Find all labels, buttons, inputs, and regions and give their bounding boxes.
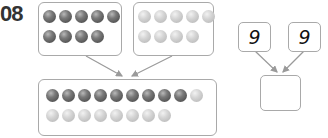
dark-ball bbox=[126, 89, 139, 102]
light-ball bbox=[170, 30, 183, 43]
light-ball bbox=[190, 89, 203, 102]
light-ball bbox=[138, 10, 151, 23]
ball-row bbox=[138, 30, 199, 43]
dark-ball bbox=[75, 10, 88, 23]
arrow-right-number-to-answer bbox=[283, 51, 304, 72]
dark-ball bbox=[110, 89, 123, 102]
ball-row bbox=[46, 89, 203, 102]
dark-ball bbox=[142, 89, 155, 102]
dark-ball bbox=[107, 10, 120, 23]
dark-ball bbox=[75, 30, 88, 43]
dark-ball bbox=[94, 89, 107, 102]
dark-ball bbox=[62, 89, 75, 102]
light-ball bbox=[202, 10, 215, 23]
light-ball bbox=[94, 109, 107, 122]
dark-ball bbox=[158, 89, 171, 102]
arrow-left-to-combined bbox=[86, 56, 122, 76]
light-ball bbox=[186, 30, 199, 43]
dark-ball bbox=[174, 89, 187, 102]
right-ball-group bbox=[133, 2, 214, 56]
dark-ball bbox=[91, 10, 104, 23]
dark-ball bbox=[46, 89, 59, 102]
combined-ball-group bbox=[38, 79, 217, 136]
ball-row bbox=[138, 10, 215, 23]
dark-ball bbox=[91, 30, 104, 43]
left-ball-group bbox=[38, 2, 122, 56]
ball-row bbox=[46, 109, 171, 122]
ball-row bbox=[43, 30, 104, 43]
dark-ball bbox=[59, 30, 72, 43]
number-box-left: 9 bbox=[238, 22, 271, 52]
light-ball bbox=[158, 109, 171, 122]
light-ball bbox=[78, 109, 91, 122]
light-ball bbox=[110, 109, 123, 122]
dark-ball bbox=[43, 10, 56, 23]
light-ball bbox=[142, 109, 155, 122]
dark-ball bbox=[43, 30, 56, 43]
light-ball bbox=[138, 30, 151, 43]
light-ball bbox=[46, 109, 59, 122]
arrow-left-number-to-answer bbox=[255, 51, 277, 72]
answer-box[interactable] bbox=[260, 75, 301, 111]
light-ball bbox=[62, 109, 75, 122]
light-ball bbox=[170, 10, 183, 23]
number-box-right: 9 bbox=[288, 22, 321, 52]
dark-ball bbox=[78, 89, 91, 102]
arrow-right-to-combined bbox=[132, 56, 172, 76]
ball-row bbox=[43, 10, 120, 23]
dark-ball bbox=[59, 10, 72, 23]
light-ball bbox=[154, 10, 167, 23]
light-ball bbox=[186, 10, 199, 23]
light-ball bbox=[154, 30, 167, 43]
light-ball bbox=[126, 109, 139, 122]
